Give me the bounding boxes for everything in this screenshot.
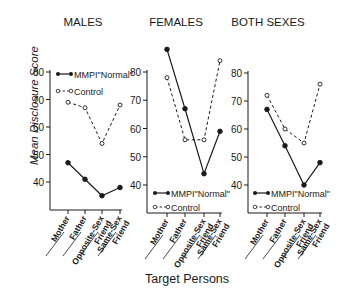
control-point <box>218 59 222 63</box>
mmpi-point <box>118 185 123 190</box>
y-tick-label: 80 <box>231 68 243 79</box>
y-tick-label: 50 <box>231 152 243 163</box>
x-tick-label: Mother <box>49 213 72 243</box>
x-tick-label: Mother <box>248 216 271 246</box>
legend-mmpi-marker <box>266 191 270 195</box>
control-point <box>302 141 306 145</box>
y-tick-label: 60 <box>33 122 45 133</box>
control-line <box>167 61 220 140</box>
legend: MMPI"Normal"Control <box>56 70 133 97</box>
legend-control-label: Control <box>171 203 200 213</box>
y-tick-label: 60 <box>231 124 243 135</box>
legend-control-marker <box>69 89 73 93</box>
panel-females: FEMALES4050607080MotherFatherOpposite-Se… <box>130 16 232 274</box>
control-point <box>318 82 322 86</box>
control-point <box>100 142 104 146</box>
panel-title: FEMALES <box>149 16 203 28</box>
control-point <box>83 106 87 110</box>
mmpi-point <box>183 106 188 111</box>
panel-males: MALES4050607080MotherFatherOpposite-SexF… <box>33 16 133 271</box>
control-line <box>68 102 120 143</box>
mmpi-point <box>202 171 207 176</box>
control-point <box>265 93 269 97</box>
legend-mmpi-label: MMPI"Normal" <box>271 189 330 199</box>
disclosure-score-chart: Mean Disclosure ScoreMALES4050607080Moth… <box>0 0 346 299</box>
y-tick-label: 50 <box>33 150 45 161</box>
legend-control-marker <box>56 89 60 93</box>
legend-control-marker <box>253 205 257 209</box>
control-point <box>202 138 206 142</box>
control-line <box>267 84 320 143</box>
legend-mmpi-marker <box>69 72 73 76</box>
y-tick-label: 80 <box>33 67 45 78</box>
mmpi-point <box>100 193 105 198</box>
y-tick-label: 40 <box>33 177 45 188</box>
mmpi-point <box>302 183 307 188</box>
legend-mmpi-marker <box>153 191 157 195</box>
mmpi-line <box>167 49 220 173</box>
y-tick-label: 80 <box>130 67 142 78</box>
mmpi-point <box>165 47 170 52</box>
mmpi-point <box>66 160 71 165</box>
mmpi-line <box>68 163 120 196</box>
legend-mmpi-label: MMPI"Normal" <box>74 70 133 80</box>
y-tick-label: 70 <box>130 95 142 106</box>
legend-mmpi-label: MMPI"Normal" <box>171 189 230 199</box>
x-tick-label: Mother <box>148 216 171 246</box>
x-tick-label-line: Mother <box>49 213 72 243</box>
panel-title: BOTH SEXES <box>231 16 305 28</box>
legend-mmpi-marker <box>253 191 257 195</box>
y-tick-label: 60 <box>130 124 142 135</box>
y-tick-label: 70 <box>231 96 243 107</box>
y-tick-label: 50 <box>130 152 142 163</box>
panel-both-sexes: BOTH SEXES4050607080MotherFatherOpposite… <box>231 16 332 274</box>
control-point <box>66 100 70 104</box>
control-point <box>183 138 187 142</box>
y-tick-label: 70 <box>33 95 45 106</box>
mmpi-point <box>83 177 88 182</box>
x-tick-label-line: Mother <box>148 216 171 246</box>
x-axis-label: Target Persons <box>145 272 229 286</box>
legend-mmpi-marker <box>166 191 170 195</box>
control-point <box>118 103 122 107</box>
legend-control-marker <box>153 205 157 209</box>
panel-title: MALES <box>64 16 103 28</box>
x-tick-label-line: Mother <box>248 216 271 246</box>
legend: MMPI"Normal"Control <box>253 189 330 213</box>
control-point <box>165 76 169 80</box>
legend-control-marker <box>166 205 170 209</box>
mmpi-point <box>283 144 288 149</box>
legend-control-marker <box>266 205 270 209</box>
legend-control-label: Control <box>74 87 103 97</box>
mmpi-point <box>265 107 270 112</box>
y-axis-label: Mean Disclosure Score <box>28 46 40 165</box>
legend-control-label: Control <box>271 203 300 213</box>
y-tick-label: 40 <box>231 180 243 191</box>
y-tick-label: 40 <box>130 180 142 191</box>
legend-mmpi-marker <box>56 72 60 76</box>
mmpi-point <box>218 129 223 134</box>
mmpi-point <box>318 160 323 165</box>
mmpi-line <box>267 109 320 185</box>
legend: MMPI"Normal"Control <box>153 189 230 213</box>
control-point <box>283 127 287 131</box>
